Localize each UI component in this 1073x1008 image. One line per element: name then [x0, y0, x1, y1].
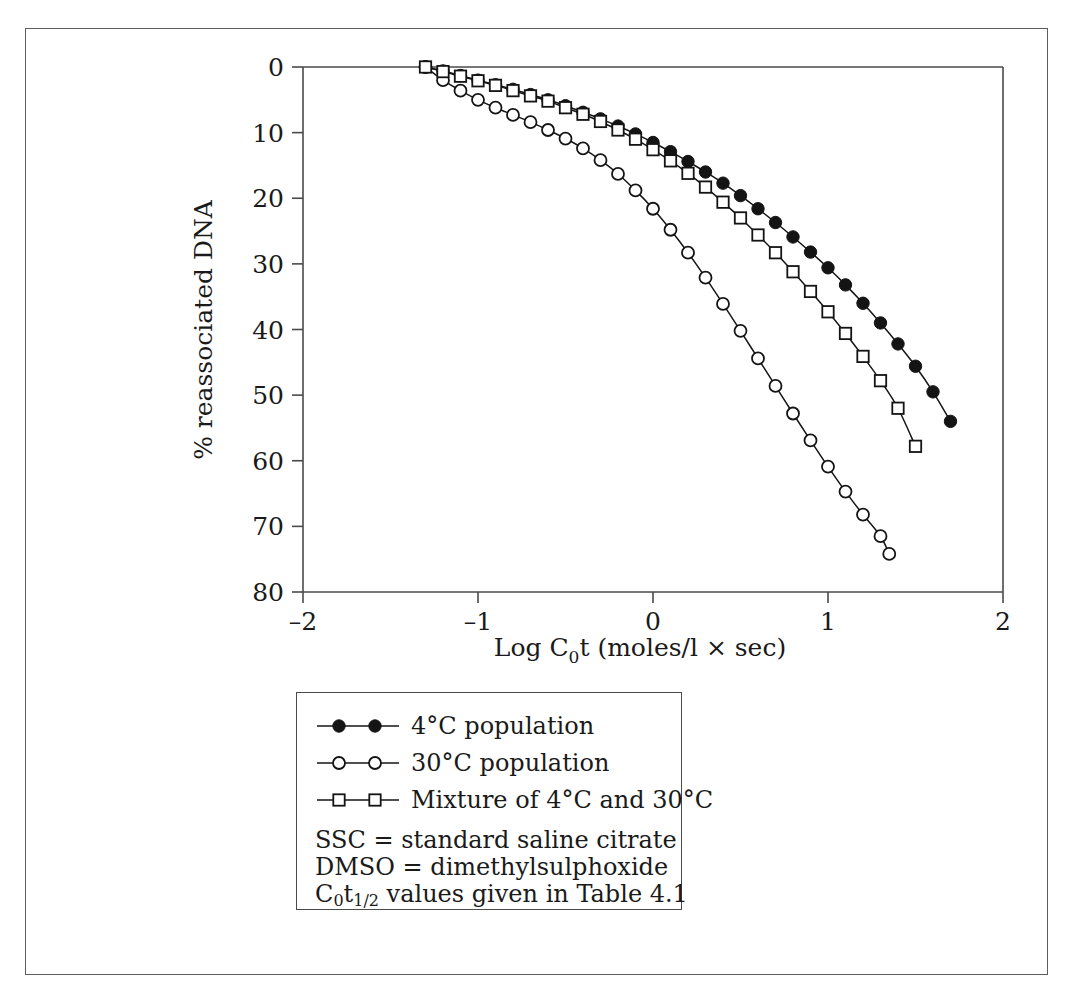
data-point-marker [525, 90, 536, 101]
legend-entry-label: 30°C population [401, 749, 609, 777]
data-point-marker [770, 247, 781, 258]
x-axis-ticks: –2–1012 [289, 592, 1011, 636]
data-point-marker [822, 306, 833, 317]
data-point-marker [630, 184, 642, 196]
y-tick-label: 70 [252, 512, 284, 541]
data-point-marker [665, 155, 676, 166]
data-point-marker [857, 297, 869, 309]
data-point-marker [647, 144, 658, 155]
y-axis-ticks: 01020304050607080 [252, 53, 303, 607]
data-point-marker [734, 189, 746, 201]
data-point-marker [437, 66, 448, 77]
data-point-marker [699, 166, 711, 178]
data-point-marker [369, 794, 380, 805]
data-point-marker [910, 441, 921, 452]
data-point-marker [805, 286, 816, 297]
legend-note-line-3: C0t1/2 values given in Table 4.1 [315, 881, 671, 914]
legend-notes: SSC = standard saline citrateDMSO = dime… [315, 827, 671, 914]
y-tick-label: 10 [252, 119, 284, 148]
data-point-marker [472, 94, 484, 106]
data-point-marker [595, 116, 606, 127]
legend-entry-pop_30c: 30°C population [315, 744, 665, 781]
x-tick-label: –1 [464, 607, 492, 636]
data-point-marker [577, 109, 588, 120]
data-point-marker [839, 279, 851, 291]
data-point-marker [874, 317, 886, 329]
data-point-marker [647, 203, 659, 215]
data-point-marker [542, 124, 554, 136]
data-point-marker [455, 85, 467, 97]
data-point-marker [735, 325, 747, 337]
legend-entry-label: 4°C population [401, 712, 594, 740]
data-point-marker [787, 266, 798, 277]
data-point-marker [333, 794, 344, 805]
data-point-marker [752, 203, 764, 215]
data-point-marker [333, 757, 345, 769]
data-point-marker [700, 181, 711, 192]
data-point-marker [630, 133, 641, 144]
data-point-marker [682, 247, 694, 259]
data-point-marker [909, 360, 921, 372]
x-tick-label: 1 [820, 607, 836, 636]
data-point-marker [420, 61, 431, 72]
data-point-marker [822, 461, 834, 473]
data-point-marker [682, 168, 693, 179]
series-line [426, 67, 916, 446]
data-point-marker [700, 272, 712, 284]
data-point-marker [944, 415, 956, 427]
data-point-marker [840, 328, 851, 339]
series-open-square [420, 61, 921, 452]
data-point-marker [472, 75, 483, 86]
x-tick-label: –2 [289, 607, 317, 636]
legend-marker-open-square [315, 790, 401, 810]
data-point-marker [507, 109, 519, 121]
y-axis-title: % reassociated DNA [189, 199, 218, 460]
data-point-marker [840, 486, 852, 498]
series-filled-circle [419, 61, 956, 428]
data-point-marker [560, 102, 571, 113]
y-tick-label: 40 [252, 316, 284, 345]
legend-entry-mixture: Mixture of 4°C and 30°C [315, 781, 665, 818]
data-point-marker [612, 168, 624, 180]
legend-entry-label: Mixture of 4°C and 30°C [401, 786, 713, 814]
data-point-marker [717, 298, 729, 310]
data-point-marker [787, 408, 799, 420]
x-axis-title: Log C0t (moles/l × sec) [494, 633, 786, 667]
data-point-marker [577, 142, 589, 154]
data-point-marker [875, 530, 887, 542]
data-point-marker [804, 246, 816, 258]
data-point-marker [805, 434, 817, 446]
data-point-marker [875, 375, 886, 386]
data-point-marker [612, 124, 623, 135]
data-point-marker [595, 154, 607, 166]
data-point-marker [892, 403, 903, 414]
data-point-marker [717, 196, 728, 207]
data-point-marker [717, 177, 729, 189]
y-tick-label: 0 [268, 53, 284, 82]
data-point-marker [682, 155, 694, 167]
y-tick-label: 50 [252, 381, 284, 410]
data-point-marker [507, 85, 518, 96]
data-series-group [419, 61, 956, 560]
data-point-marker [769, 216, 781, 228]
data-point-marker [490, 102, 502, 114]
data-point-marker [822, 262, 834, 274]
legend-note-line-2: DMSO = dimethylsulphoxide [315, 854, 671, 881]
y-tick-label: 80 [252, 578, 284, 607]
data-point-marker [525, 116, 537, 128]
data-point-marker [883, 548, 895, 560]
legend-entry-list: 4°C population30°C populationMixture of … [315, 707, 665, 818]
data-point-marker [752, 352, 764, 364]
data-point-marker [770, 380, 782, 392]
x-tick-label: 2 [995, 607, 1011, 636]
legend-entry-pop_4c: 4°C population [315, 707, 665, 744]
data-point-marker [369, 757, 381, 769]
x-tick-label: 0 [645, 607, 661, 636]
data-point-marker [665, 224, 677, 236]
legend-marker-filled-circle [315, 716, 401, 736]
data-point-marker [787, 231, 799, 243]
data-point-marker [735, 212, 746, 223]
data-point-marker [455, 70, 466, 81]
data-point-marker [490, 80, 501, 91]
data-point-marker [927, 386, 939, 398]
